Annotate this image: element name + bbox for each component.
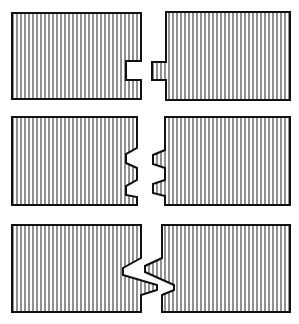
joint-row-tongue-and-groove xyxy=(12,12,290,100)
board-left-double-groove xyxy=(12,117,137,205)
board-left-z xyxy=(12,225,157,312)
joint-row-double-dovetail xyxy=(12,117,290,205)
joint-diagram xyxy=(0,0,299,324)
board-left-grooved xyxy=(12,13,141,99)
joint-row-interlocking-z xyxy=(12,225,290,312)
board-right-z xyxy=(145,225,290,312)
board-right-tongued xyxy=(152,12,290,100)
board-right-double-tongue xyxy=(153,117,290,205)
